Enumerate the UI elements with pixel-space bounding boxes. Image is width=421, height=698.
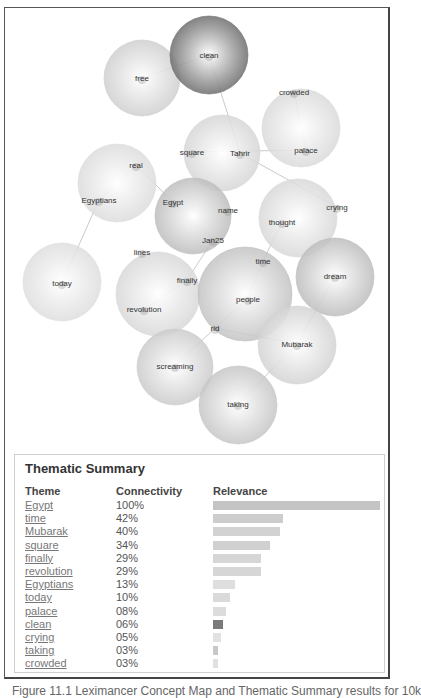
concept-label-real[interactable]: real <box>129 161 143 170</box>
connectivity-value: 29% <box>116 565 138 578</box>
concept-label-screaming[interactable]: screaming <box>157 362 194 371</box>
connectivity-value: 42% <box>116 512 138 525</box>
concept-label-revolution[interactable]: revolution <box>127 305 162 314</box>
relevance-bar <box>213 580 235 589</box>
theme-link-palace[interactable]: palace <box>25 605 57 618</box>
connectivity-value: 100% <box>116 499 144 512</box>
concept-label-egyptians[interactable]: Egyptians <box>81 196 116 205</box>
relevance-bar <box>213 633 221 642</box>
connectivity-value: 10% <box>116 591 138 604</box>
thematic-summary-panel: Thematic Summary Theme Connectivity Rele… <box>14 454 385 673</box>
concept-label-thought[interactable]: thought <box>269 218 296 227</box>
connectivity-value: 29% <box>116 552 138 565</box>
theme-link-mubarak[interactable]: Mubarak <box>25 525 68 538</box>
relevance-bar <box>213 646 218 655</box>
connectivity-value: 05% <box>116 631 138 644</box>
summary-row: today10% <box>15 591 384 604</box>
theme-link-square[interactable]: square <box>25 539 59 552</box>
connectivity-value: 13% <box>116 578 138 591</box>
column-header-theme: Theme <box>25 485 60 497</box>
concept-label-egypt[interactable]: Egypt <box>163 198 184 207</box>
concept-map: cleanfreecrowdedsquareTahrirpalacerealEg… <box>0 0 394 450</box>
theme-link-today[interactable]: today <box>25 591 52 604</box>
relevance-bar <box>213 514 283 523</box>
summary-row: clean06% <box>15 618 384 631</box>
concept-label-finally[interactable]: finally <box>177 276 197 285</box>
relevance-bar <box>213 554 261 563</box>
concept-label-square[interactable]: square <box>180 148 205 157</box>
relevance-bar <box>213 527 280 536</box>
concept-label-tahrir[interactable]: Tahrir <box>230 149 250 158</box>
concept-label-name[interactable]: name <box>218 206 239 215</box>
concept-label-free[interactable]: free <box>135 74 149 83</box>
relevance-bar <box>213 501 380 510</box>
relevance-bar <box>213 541 270 550</box>
theme-circles <box>23 16 374 444</box>
summary-row: crowded03% <box>15 657 384 670</box>
summary-row: square34% <box>15 539 384 552</box>
summary-row: crying05% <box>15 631 384 644</box>
theme-circle-crowded-palace[interactable] <box>262 89 340 167</box>
theme-circle-revolution[interactable] <box>116 252 200 336</box>
summary-row: Mubarak40% <box>15 525 384 538</box>
concept-label-dream[interactable]: dream <box>324 272 347 281</box>
theme-link-time[interactable]: time <box>25 512 46 525</box>
theme-link-revolution[interactable]: revolution <box>25 565 73 578</box>
connectivity-value: 03% <box>116 657 138 670</box>
connectivity-value: 03% <box>116 644 138 657</box>
relevance-bar <box>213 620 223 629</box>
concept-label-crowded[interactable]: crowded <box>279 88 309 97</box>
concept-label-mubarak[interactable]: Mubarak <box>281 340 313 349</box>
summary-row: palace08% <box>15 605 384 618</box>
connectivity-value: 40% <box>116 525 138 538</box>
summary-row: Egyptians13% <box>15 578 384 591</box>
connectivity-value: 34% <box>116 539 138 552</box>
summary-title: Thematic Summary <box>25 461 145 476</box>
figure-caption: Figure 11.1 Leximancer Concept Map and T… <box>12 684 421 698</box>
summary-row: revolution29% <box>15 565 384 578</box>
theme-link-egypt[interactable]: Egypt <box>25 499 53 512</box>
concept-label-jan25[interactable]: Jan25 <box>202 236 224 245</box>
concept-label-rid[interactable]: rid <box>211 324 220 333</box>
concept-label-lines[interactable]: lines <box>134 248 150 257</box>
connectivity-value: 08% <box>116 605 138 618</box>
relevance-bar <box>213 593 230 602</box>
concept-label-today[interactable]: today <box>52 279 72 288</box>
relevance-bar <box>213 607 226 616</box>
theme-link-crying[interactable]: crying <box>25 631 54 644</box>
theme-link-taking[interactable]: taking <box>25 644 54 657</box>
column-header-connectivity: Connectivity <box>116 485 182 497</box>
concept-label-crying[interactable]: crying <box>326 203 347 212</box>
summary-row: time42% <box>15 512 384 525</box>
concept-label-clean[interactable]: clean <box>199 51 218 60</box>
summary-row: finally29% <box>15 552 384 565</box>
relevance-bar <box>213 659 218 668</box>
concept-label-people[interactable]: people <box>236 295 261 304</box>
column-header-relevance: Relevance <box>213 485 267 497</box>
concept-label-palace[interactable]: palace <box>294 146 318 155</box>
theme-circle-real-egyptians[interactable] <box>78 144 156 222</box>
theme-link-clean[interactable]: clean <box>25 618 51 631</box>
summary-row: Egypt100% <box>15 499 384 512</box>
connectivity-value: 06% <box>116 618 138 631</box>
theme-link-finally[interactable]: finally <box>25 552 53 565</box>
theme-link-egyptians[interactable]: Egyptians <box>25 578 73 591</box>
relevance-bar <box>213 567 261 576</box>
theme-link-crowded[interactable]: crowded <box>25 657 67 670</box>
concept-label-taking[interactable]: taking <box>227 400 248 409</box>
concept-label-time[interactable]: time <box>255 257 271 266</box>
summary-row: taking03% <box>15 644 384 657</box>
